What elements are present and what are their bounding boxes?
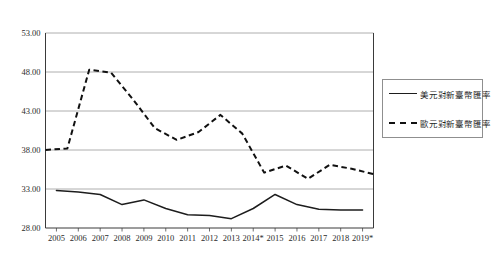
legend-entry-eur: 歐元對新臺幣匯率 bbox=[383, 109, 482, 138]
x-axis-tick-label: 2013 bbox=[223, 233, 240, 243]
x-axis-tick-label: 2014* bbox=[243, 233, 264, 243]
x-axis-tick-label: 2012 bbox=[201, 233, 218, 243]
x-axis-tick-label: 2010 bbox=[157, 233, 174, 243]
x-axis-tick-label: 2015 bbox=[267, 233, 284, 243]
x-axis-tick-label: 2018 bbox=[332, 233, 349, 243]
x-axis-tick-label: 2007 bbox=[92, 233, 109, 243]
series-line-usd bbox=[56, 191, 362, 219]
x-axis-tick-label: 2019* bbox=[352, 233, 373, 243]
y-axis-tick-label: 43.00 bbox=[21, 106, 40, 116]
dashed-line-key-icon bbox=[389, 118, 417, 128]
x-axis-tick-label: 2016 bbox=[288, 233, 305, 243]
y-axis-tick-label: 48.00 bbox=[21, 67, 40, 77]
chart-legend: 美元對新臺幣匯率 歐元對新臺幣匯率 bbox=[382, 79, 483, 138]
y-axis-tick-label: 53.00 bbox=[21, 28, 40, 38]
legend-label-usd: 美元對新臺幣匯率 bbox=[420, 88, 490, 100]
x-axis-tick-marks bbox=[56, 228, 362, 232]
x-axis-tick-label: 2011 bbox=[179, 233, 196, 243]
y-axis-tick-label: 38.00 bbox=[21, 145, 40, 155]
legend-label-eur: 歐元對新臺幣匯率 bbox=[420, 117, 490, 129]
solid-line-key-icon bbox=[389, 89, 417, 99]
y-axis-tick-label: 28.00 bbox=[21, 223, 40, 233]
y-axis-tick-label: 33.00 bbox=[21, 184, 40, 194]
x-axis-tick-label: 2017 bbox=[310, 233, 327, 243]
x-axis-tick-label: 2008 bbox=[114, 233, 131, 243]
x-axis-tick-label: 2005 bbox=[48, 233, 65, 243]
x-axis-tick-label: 2006 bbox=[70, 233, 87, 243]
x-axis-tick-labels: 2005200620072008200920102011201220132014… bbox=[48, 233, 373, 243]
exchange-rate-line-chart: 28.0033.0038.0043.0048.0053.00 200520062… bbox=[0, 0, 491, 257]
y-axis-tick-labels: 28.0033.0038.0043.0048.0053.00 bbox=[21, 28, 40, 233]
x-axis-tick-label: 2009 bbox=[135, 233, 152, 243]
gridlines-group bbox=[46, 33, 374, 189]
legend-entry-usd: 美元對新臺幣匯率 bbox=[383, 80, 482, 109]
series-line-eur bbox=[46, 70, 374, 179]
